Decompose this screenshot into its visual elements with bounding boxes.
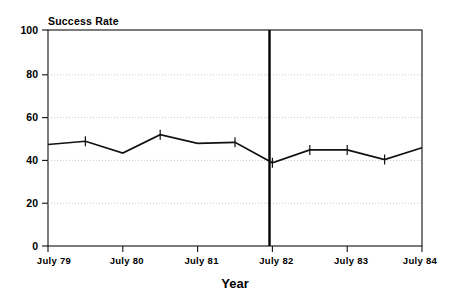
xtick-label-july79: July 79	[37, 255, 71, 266]
y-axis-ticks	[42, 30, 48, 246]
chart-title: Success Rate	[48, 15, 119, 27]
y-axis-tick-labels: 0 20 40 60 80 100	[20, 24, 38, 252]
ytick-label-40: 40	[26, 154, 38, 166]
xtick-label-july83: July 83	[334, 255, 368, 266]
ytick-label-80: 80	[26, 68, 38, 80]
chart-canvas: 0 20 40 60 80 100 July 79 July 80 July 8…	[0, 0, 463, 296]
x-axis-ticks	[48, 246, 422, 252]
x-axis-label: Year	[221, 276, 248, 291]
ytick-label-20: 20	[26, 197, 38, 209]
ytick-label-60: 60	[26, 111, 38, 123]
xtick-label-july84: July 84	[403, 255, 438, 266]
ytick-label-0: 0	[32, 240, 38, 252]
xtick-label-july81: July 81	[184, 255, 219, 266]
xtick-label-july82: July 82	[259, 255, 293, 266]
xtick-label-july80: July 80	[110, 255, 144, 266]
ytick-label-100: 100	[20, 24, 38, 36]
x-axis-tick-labels: July 79 July 80 July 81 July 82 July 83 …	[37, 255, 438, 266]
success-rate-line-chart: 0 20 40 60 80 100 July 79 July 80 July 8…	[0, 0, 463, 296]
